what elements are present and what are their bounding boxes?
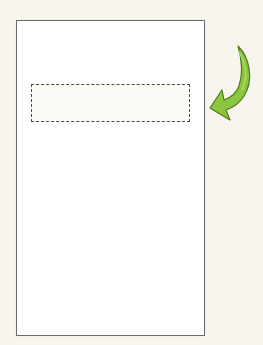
page-outline [16,20,205,336]
dashed-placeholder-region [31,84,190,122]
curved-arrow-icon [208,44,252,126]
